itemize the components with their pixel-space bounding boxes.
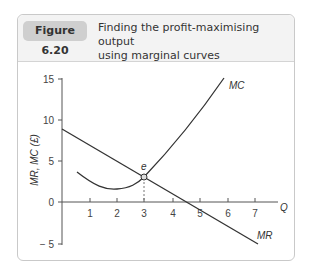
svg-text:7: 7 <box>252 208 258 219</box>
svg-text:3: 3 <box>141 208 147 219</box>
y-ticks <box>58 79 62 244</box>
mc-label: MC <box>229 80 245 91</box>
svg-text:0: 0 <box>48 197 54 208</box>
x-tick-labels: 1 2 3 4 5 6 7 <box>87 208 258 219</box>
x-ticks <box>90 198 255 202</box>
svg-text:1: 1 <box>87 208 93 219</box>
mr-curve <box>62 129 258 244</box>
x-axis-title: Q <box>280 202 288 213</box>
svg-text:10: 10 <box>43 115 55 126</box>
chart: 15 10 5 0 − 5 MR, MC (£) 1 2 3 4 5 6 7 Q… <box>0 0 313 273</box>
y-tick-labels: 15 10 5 0 − 5 <box>40 74 55 250</box>
svg-text:− 5: − 5 <box>40 239 55 250</box>
svg-text:5: 5 <box>48 156 54 167</box>
y-axis-title: MR, MC (£) <box>29 134 40 186</box>
equilibrium-point <box>141 174 147 180</box>
point-label-e: e <box>141 161 147 172</box>
svg-text:4: 4 <box>170 208 176 219</box>
svg-text:15: 15 <box>43 74 55 85</box>
mc-curve <box>77 78 224 189</box>
mr-label: MR <box>257 230 273 241</box>
svg-text:6: 6 <box>225 208 231 219</box>
svg-text:2: 2 <box>114 208 120 219</box>
